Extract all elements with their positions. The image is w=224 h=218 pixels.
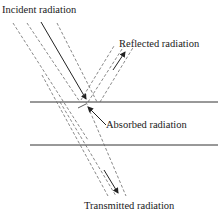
reflected-beam-edge-1 bbox=[88, 46, 124, 102]
absorbed-arrow-icon bbox=[88, 107, 106, 125]
transmitted-beam-edge-1 bbox=[60, 102, 116, 196]
radiation-diagram bbox=[0, 0, 224, 218]
incident-beam-edge-1 bbox=[13, 23, 88, 140]
transmitted-beam-edge-2 bbox=[86, 102, 126, 196]
incident-beam-edge-3 bbox=[57, 23, 97, 102]
incident-arrow-icon bbox=[41, 22, 86, 99]
transmitted-arrow-icon bbox=[104, 170, 118, 193]
reflected-arrow-icon bbox=[113, 52, 125, 70]
incident-beam-edge-2 bbox=[27, 23, 80, 102]
incident-radiation-label: Incident radiation bbox=[2, 5, 76, 16]
reflected-beam-edge-3 bbox=[81, 46, 114, 100]
transmitted-beam-edge-3 bbox=[42, 75, 108, 196]
reflected-beam-edge-2 bbox=[100, 46, 134, 102]
reflected-radiation-label: Reflected radiation bbox=[119, 39, 199, 50]
absorbed-tick bbox=[78, 104, 86, 108]
transmitted-radiation-label: Transmitted radiation bbox=[84, 201, 174, 212]
absorbed-radiation-label: Absorbed radiation bbox=[106, 120, 187, 131]
